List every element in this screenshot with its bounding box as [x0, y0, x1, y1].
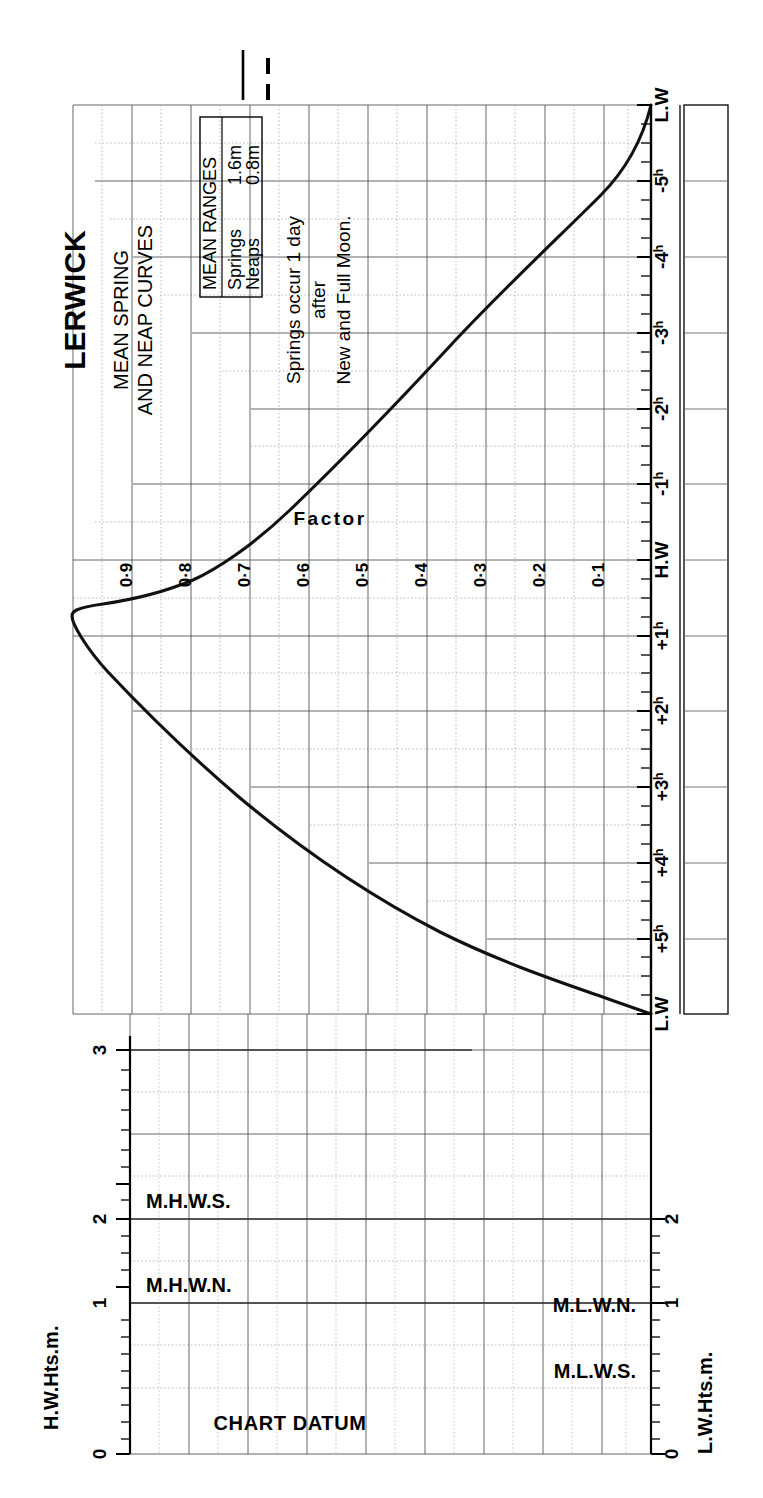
subtitle-line-1: MEAN SPRING [110, 250, 132, 390]
factor-tick-0-1: 0·1 [589, 563, 608, 588]
time-tick-minus5: -5ʰ [651, 169, 672, 193]
time-tick-minus4: -4ʰ [651, 245, 672, 269]
factor-tick-0-6: 0·6 [294, 563, 313, 588]
time-tick-minus3: -3ʰ [651, 321, 672, 345]
chart-datum-label: CHART DATUM [214, 1412, 367, 1434]
tidal-curve-page: L.W -5ʰ -4ʰ -3ʰ -2ʰ -1ʰ H.W +1ʰ +2ʰ +3ʰ … [0, 0, 763, 1498]
factor-tick-0-3: 0·3 [471, 563, 490, 588]
time-tick-plus2: +2ʰ [651, 697, 672, 726]
lw-tick-0: 0 [661, 1449, 682, 1460]
time-tick-plus5: +5ʰ [651, 925, 672, 954]
legend-springs-value: 1.6m [225, 145, 245, 185]
marker-mhws: M.H.W.S. [146, 1190, 230, 1212]
factor-tick-0-8: 0·8 [176, 563, 195, 588]
factor-tick-0-7: 0·7 [235, 563, 254, 588]
marker-mlwn: M.L.W.N. [553, 1294, 636, 1316]
hw-tick-3: 3 [89, 1045, 110, 1056]
legend-box-title: MEAN RANGES [200, 157, 220, 290]
factor-tick-0-2: 0·2 [530, 563, 549, 588]
marker-mhwn: M.H.W.N. [146, 1274, 232, 1296]
page-title: LERWICK [58, 230, 91, 370]
hw-tick-2: 2 [89, 1214, 110, 1225]
note-line-1: Springs occur 1 day [283, 216, 304, 384]
time-tick-plus4: +4ʰ [651, 849, 672, 878]
legend-neaps-label: Neaps [243, 238, 263, 290]
legend-neaps-value: 0.8m [243, 145, 263, 185]
time-tick-lw-end: L.W [651, 997, 672, 1032]
time-tick-plus1: +1ʰ [651, 622, 672, 651]
hw-tick-1: 1 [89, 1297, 110, 1308]
note-line-3: New and Full Moon. [333, 216, 354, 385]
tidal-curve-diagram: L.W -5ʰ -4ʰ -3ʰ -2ʰ -1ʰ H.W +1ʰ +2ʰ +3ʰ … [0, 0, 763, 1498]
time-tick-plus3: +3ʰ [651, 773, 672, 802]
time-tick-lw-start: L.W [651, 88, 672, 123]
legend-springs-label: Springs [225, 229, 245, 290]
factor-tick-0-9: 0·9 [117, 563, 136, 588]
lw-tick-1: 1 [661, 1297, 682, 1308]
hw-tick-0: 0 [89, 1449, 110, 1460]
lw-axis-title: L.W.Hts.m. [694, 1352, 716, 1454]
time-tick-minus2: -2ʰ [651, 397, 672, 421]
time-tick-minus1: -1ʰ [651, 472, 672, 496]
note-line-2: after [308, 280, 329, 319]
lw-tick-2: 2 [661, 1214, 682, 1225]
factor-tick-0-5: 0·5 [353, 563, 372, 588]
time-tick-hw: H.W [651, 541, 672, 578]
hw-axis-title: H.W.Hts.m. [40, 1326, 62, 1430]
subtitle-line-2: AND NEAP CURVES [134, 225, 156, 415]
marker-mlws: M.L.W.S. [554, 1360, 636, 1382]
factor-tick-0-4: 0·4 [412, 562, 431, 587]
factor-axis-label: Factor [293, 508, 366, 529]
